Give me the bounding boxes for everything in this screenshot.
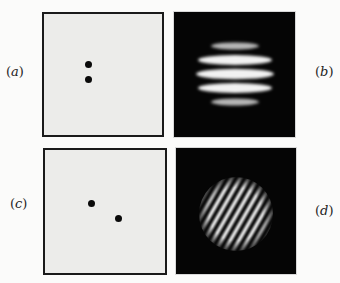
horizontal-fringes <box>174 12 297 139</box>
panel-d-fringes <box>175 147 297 275</box>
tilted-fringes <box>176 148 298 276</box>
pinhole-upper-left <box>88 200 95 207</box>
panel-a-aperture <box>42 12 164 137</box>
panel-c-aperture <box>43 148 167 275</box>
panel-b-label: (b) <box>315 64 333 79</box>
panel-a-label: (a) <box>6 64 24 79</box>
panel-b-fringes <box>173 11 296 138</box>
pinhole-lower-right <box>115 215 122 222</box>
pinhole-bottom <box>85 76 92 83</box>
pinhole-top <box>85 61 92 68</box>
panel-c-label: (c) <box>10 196 27 211</box>
panel-d-label: (d) <box>315 203 333 218</box>
